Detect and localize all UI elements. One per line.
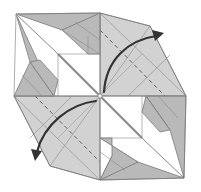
arrowhead-icon — [31, 149, 42, 161]
origami-diagram — [0, 0, 201, 192]
center-point — [98, 94, 102, 98]
